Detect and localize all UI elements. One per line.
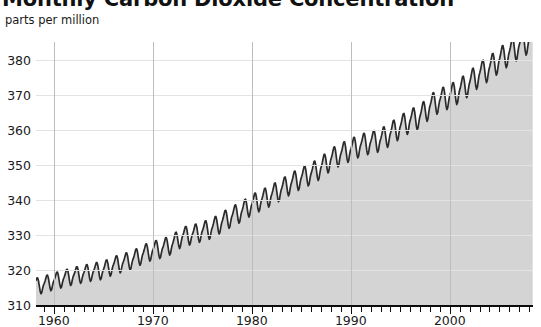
y-tick-label-350: 350 bbox=[7, 157, 31, 172]
y-tick-label-380: 380 bbox=[7, 52, 31, 67]
gridline-340 bbox=[36, 200, 533, 201]
x-tick-1998 bbox=[430, 307, 431, 312]
x-tick-2008 bbox=[529, 307, 530, 312]
x-tick-label-1970: 1970 bbox=[137, 313, 169, 327]
x-tick-1966 bbox=[113, 307, 114, 312]
gridline-370 bbox=[36, 95, 533, 96]
co2-series bbox=[36, 42, 533, 305]
gridline-350 bbox=[36, 165, 533, 166]
y-tick-label-370: 370 bbox=[7, 87, 31, 102]
x-tick-1992 bbox=[371, 307, 372, 312]
x-tick-1981 bbox=[262, 307, 263, 312]
x-tick-1976 bbox=[212, 307, 213, 312]
x-tick-1962 bbox=[74, 307, 75, 312]
x-tick-2002 bbox=[470, 307, 471, 312]
vgridline-1970 bbox=[153, 42, 154, 305]
x-tick-1996 bbox=[410, 307, 411, 312]
x-tick-2003 bbox=[480, 307, 481, 312]
x-tick-2005 bbox=[499, 307, 500, 312]
x-tick-1975 bbox=[202, 307, 203, 312]
x-tick-1987 bbox=[321, 307, 322, 312]
x-tick-1985 bbox=[301, 307, 302, 312]
x-tick-1994 bbox=[390, 307, 391, 312]
y-tick-label-340: 340 bbox=[7, 192, 31, 207]
x-tick-1972 bbox=[173, 307, 174, 312]
chart-root: Monthly Carbon Dioxide Concentration par… bbox=[0, 0, 541, 327]
co2-area-fill bbox=[36, 42, 533, 305]
x-tick-1984 bbox=[291, 307, 292, 312]
x-tick-2001 bbox=[460, 307, 461, 312]
vgridline-2000 bbox=[450, 42, 451, 305]
x-tick-2006 bbox=[509, 307, 510, 312]
plot-area bbox=[36, 42, 533, 305]
y-axis-tick-labels: 310320330340350360370380 bbox=[0, 42, 31, 305]
x-tick-2004 bbox=[489, 307, 490, 312]
y-tick-label-320: 320 bbox=[7, 262, 31, 277]
x-tick-label-1980: 1980 bbox=[236, 313, 268, 327]
x-tick-1964 bbox=[93, 307, 94, 312]
x-tick-1969 bbox=[143, 307, 144, 312]
x-tick-1961 bbox=[64, 307, 65, 312]
x-tick-label-2000: 2000 bbox=[434, 313, 466, 327]
x-tick-1977 bbox=[222, 307, 223, 312]
vgridline-1960 bbox=[54, 42, 55, 305]
x-tick-2007 bbox=[519, 307, 520, 312]
x-tick-1959 bbox=[44, 307, 45, 312]
x-tick-1993 bbox=[381, 307, 382, 312]
x-tick-1968 bbox=[133, 307, 134, 312]
gridline-380 bbox=[36, 60, 533, 61]
x-tick-1965 bbox=[103, 307, 104, 312]
vgridline-1990 bbox=[351, 42, 352, 305]
y-tick-label-310: 310 bbox=[7, 298, 31, 313]
x-tick-1978 bbox=[232, 307, 233, 312]
x-axis: 19601970198019902000 bbox=[36, 305, 533, 327]
gridline-330 bbox=[36, 235, 533, 236]
gridline-320 bbox=[36, 270, 533, 271]
y-tick-label-360: 360 bbox=[7, 122, 31, 137]
x-tick-label-1990: 1990 bbox=[335, 313, 367, 327]
chart-title: Monthly Carbon Dioxide Concentration bbox=[2, 0, 454, 11]
x-tick-1997 bbox=[420, 307, 421, 312]
vgridline-1980 bbox=[252, 42, 253, 305]
x-tick-1973 bbox=[183, 307, 184, 312]
y-axis-unit-label: parts per million bbox=[5, 13, 99, 27]
x-tick-1983 bbox=[282, 307, 283, 312]
x-tick-1971 bbox=[163, 307, 164, 312]
y-tick-label-330: 330 bbox=[7, 227, 31, 242]
x-tick-1991 bbox=[361, 307, 362, 312]
x-tick-1989 bbox=[341, 307, 342, 312]
x-tick-1974 bbox=[192, 307, 193, 312]
x-tick-1982 bbox=[272, 307, 273, 312]
x-tick-1988 bbox=[331, 307, 332, 312]
x-tick-label-1960: 1960 bbox=[38, 313, 70, 327]
x-tick-1986 bbox=[311, 307, 312, 312]
x-axis-line bbox=[36, 305, 533, 307]
x-tick-1979 bbox=[242, 307, 243, 312]
x-tick-1995 bbox=[400, 307, 401, 312]
x-tick-1967 bbox=[123, 307, 124, 312]
x-tick-1963 bbox=[84, 307, 85, 312]
x-tick-1999 bbox=[440, 307, 441, 312]
gridline-360 bbox=[36, 130, 533, 131]
